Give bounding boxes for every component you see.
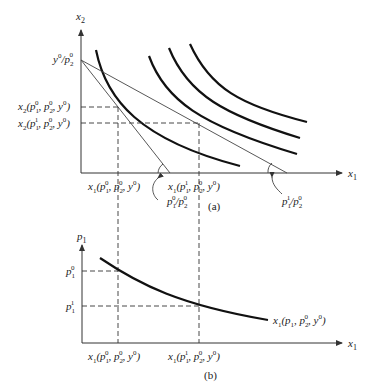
indifference-curve-4 — [190, 44, 307, 122]
angle-arc-0 — [158, 164, 163, 173]
x1-axis-label: x1 — [347, 167, 357, 182]
x1-p1-1-label-b: x1(p11, p20, y0) — [167, 349, 220, 365]
demand-curve — [100, 258, 268, 320]
x1-p1-0-label-b: x1(p10, p20, y0) — [87, 349, 140, 365]
intercept-label: y0/p20 — [52, 51, 74, 68]
slope-pointer-0 — [153, 178, 158, 200]
x2-p1-0-label: x2(p10, p20, y0) — [17, 99, 70, 115]
x1-p1-0-label-a: x1(p10, p20, y0) — [87, 179, 140, 195]
p1-axis-label: p1 — [76, 230, 87, 245]
demand-curve-label: x1(p1, p20, y0) — [272, 313, 326, 329]
budget-line-p1-0 — [81, 60, 170, 173]
x2-p1-1-label: x2(p11, p20, y0) — [17, 116, 70, 132]
p1-0-label: p10 — [65, 264, 76, 280]
slope-pointer-1 — [272, 177, 282, 194]
indifference-curve-3 — [169, 48, 300, 138]
x1-axis-label-b: x1 — [347, 337, 357, 352]
panel-a: x2 x1 y0/p20 x2(p10, p20, y0) x2(p11, p2… — [17, 10, 357, 343]
slope-label-0: p10/p20 — [166, 194, 188, 210]
demand-derivation-diagram: x2 x1 y0/p20 x2(p10, p20, y0) x2(p11, p2… — [0, 0, 375, 391]
slope-label-1: p11/p20 — [281, 194, 303, 210]
budget-line-p1-1 — [81, 60, 287, 173]
p1-1-label: p11 — [65, 299, 76, 315]
caption-b: (b) — [204, 369, 217, 382]
x2-axis-label: x2 — [75, 10, 85, 25]
x1-p1-1-label-a: x1(p11, p20, y0) — [167, 179, 220, 195]
panel-b: p1 x1 p10 p11 x1(p1, p20, y0) x1(p10, p2… — [65, 230, 357, 382]
indifference-curve-2 — [149, 56, 297, 154]
caption-a: (a) — [208, 200, 221, 213]
